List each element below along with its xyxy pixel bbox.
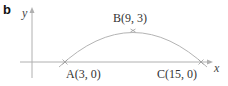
y-axis-arrow-icon: [30, 7, 35, 13]
x-axis: [20, 60, 213, 65]
point-b-label: B(9, 3): [113, 11, 147, 25]
y-axis-label: y: [21, 6, 28, 20]
x-axis-arrow-icon: [207, 60, 213, 65]
point-c-label: C(15, 0): [157, 67, 197, 81]
point-b-marker: [131, 29, 136, 32]
diagram: y x A(3, 0) B(9, 3) C(15, 0): [0, 0, 228, 86]
y-axis: [30, 7, 35, 78]
x-axis-label: x: [213, 61, 220, 75]
point-a-label: A(3, 0): [66, 67, 101, 81]
